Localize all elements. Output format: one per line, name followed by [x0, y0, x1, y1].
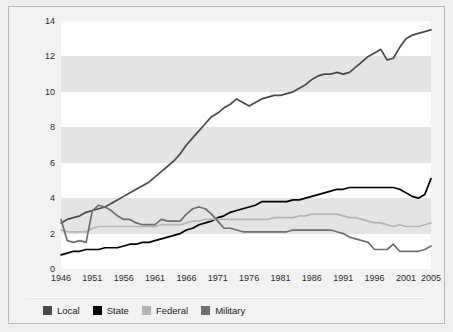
legend-swatch-icon [142, 306, 151, 315]
x-tick-label: 1961 [145, 273, 165, 283]
legend-label: Federal [156, 305, 188, 316]
x-tick-label: 2001 [396, 273, 416, 283]
y-tick-label: 8 [50, 122, 55, 132]
legend-item-state[interactable]: State [93, 305, 129, 316]
x-tick-label: 1981 [270, 273, 290, 283]
series-line-federal [61, 214, 431, 232]
x-tick-label: 1956 [114, 273, 134, 283]
x-tick-label: 1986 [302, 273, 322, 283]
legend-swatch-icon [93, 306, 102, 315]
legend-label: State [107, 305, 129, 316]
legend-item-federal[interactable]: Federal [142, 305, 188, 316]
y-tick-label: 12 [45, 51, 55, 61]
legend-item-local[interactable]: Local [43, 305, 80, 316]
x-tick-label: 1966 [176, 273, 196, 283]
series-line-state [61, 179, 431, 255]
legend-swatch-icon [201, 306, 210, 315]
x-tick-label: 1996 [365, 273, 385, 283]
x-tick-label: 1946 [51, 273, 71, 283]
x-tick-label: 1951 [82, 273, 102, 283]
legend-divider [27, 297, 427, 299]
x-tick-label: 1976 [239, 273, 259, 283]
chart-figure: Number of Employees (millions) 024681012… [8, 6, 445, 324]
chart-legend: LocalStateFederalMilitary [43, 305, 245, 316]
series-line-local [61, 30, 431, 223]
y-tick-label: 6 [50, 158, 55, 168]
legend-item-military[interactable]: Military [201, 305, 245, 316]
x-axis-ticks: 1946195119561961196619711976198119861991… [61, 273, 431, 287]
plot-area: 02468101214 [61, 21, 431, 269]
series-lines [61, 21, 431, 269]
y-tick-label: 2 [50, 229, 55, 239]
legend-swatch-icon [43, 306, 52, 315]
legend-label: Local [57, 305, 80, 316]
line-chart-svg [61, 21, 431, 269]
y-tick-label: 10 [45, 87, 55, 97]
y-tick-label: 14 [45, 16, 55, 26]
x-tick-label: 1971 [208, 273, 228, 283]
series-line-military [61, 205, 431, 251]
x-tick-label: 2005 [421, 273, 441, 283]
x-tick-label: 1991 [333, 273, 353, 283]
y-tick-label: 4 [50, 193, 55, 203]
legend-label: Military [215, 305, 245, 316]
